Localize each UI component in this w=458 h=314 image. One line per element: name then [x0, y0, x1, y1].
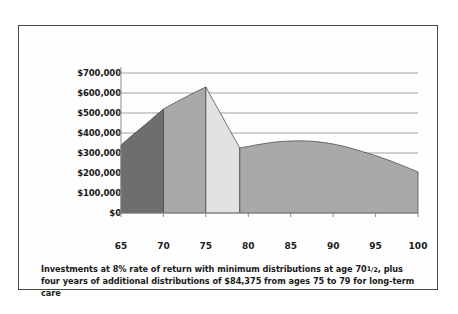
chart-plot-area: $0$100,000$200,000$300,000$400,000$500,0… — [19, 26, 439, 238]
chart-caption: Investments at 8% rate of return with mi… — [41, 264, 421, 300]
caption-line2: years of additional distributions of $84… — [41, 276, 414, 298]
x-axis-tick-label: 95 — [369, 242, 382, 251]
x-axis-tick-label: 90 — [327, 242, 340, 251]
x-axis-tick-label: 80 — [242, 242, 255, 251]
caption-line1-part-a: Investments at 8% rate of return with mi… — [41, 264, 367, 274]
area-band-age-65-to-70-accumulation — [121, 109, 163, 213]
x-axis-tick-labels: 65707580859095100 — [121, 240, 418, 258]
x-axis-tick-label: 75 — [200, 242, 213, 251]
area-band-age-79-to-100-remaining-balance — [240, 141, 418, 213]
x-axis-tick-label: 100 — [409, 242, 428, 251]
area-band-age-70-to-75-minimum-distributions — [163, 87, 205, 213]
chart-figure: $0$100,000$200,000$300,000$400,000$500,0… — [18, 25, 438, 290]
x-axis-tick-label: 70 — [157, 242, 170, 251]
x-axis-tick-label: 85 — [284, 242, 297, 251]
x-axis-tick-label: 65 — [115, 242, 128, 251]
area-chart-svg — [19, 26, 439, 238]
area-band-age-75-to-79-long-term-care-distributions — [206, 87, 240, 213]
